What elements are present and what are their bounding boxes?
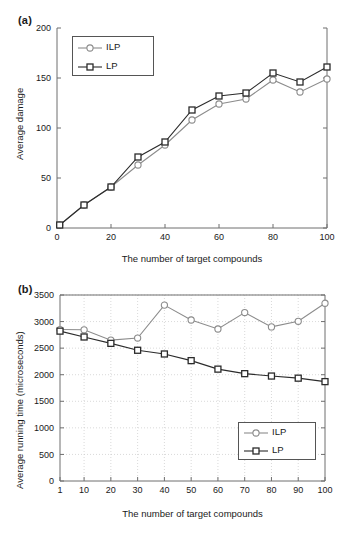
data-point-lp	[57, 222, 63, 228]
data-point-ilp	[324, 76, 330, 82]
legend-item-ilp[interactable]: ILP	[239, 423, 315, 441]
x-tick-label: 60	[213, 485, 223, 495]
series-lp	[57, 328, 328, 384]
legend-circle-marker-icon	[77, 42, 103, 52]
x-tick-label: 0	[54, 232, 59, 242]
x-tick-label: 40	[160, 232, 170, 242]
legend-square-marker-icon	[243, 445, 269, 455]
data-point-ilp	[189, 117, 195, 123]
data-point-lp	[270, 70, 276, 76]
data-point-ilp	[135, 162, 141, 168]
x-tick-label: 20	[106, 232, 116, 242]
data-point-ilp	[135, 335, 141, 341]
data-point-lp	[324, 64, 330, 70]
data-point-ilp	[215, 326, 221, 332]
x-tick-label: 1	[57, 485, 62, 495]
data-point-lp	[81, 202, 87, 208]
y-tick-label: 0	[49, 476, 54, 486]
series-ilp	[57, 76, 331, 228]
x-tick-label: 100	[319, 232, 334, 242]
data-point-lp	[295, 375, 301, 381]
x-tick-label: 80	[268, 232, 278, 242]
data-point-ilp	[216, 101, 222, 107]
panel-a-legend[interactable]: ILPLP	[72, 36, 154, 76]
x-tick-label: 90	[293, 485, 303, 495]
data-point-ilp	[268, 324, 274, 330]
y-tick-label: 1500	[34, 396, 54, 406]
panel-a: (a) Average damage 050100150200020406080…	[0, 0, 354, 271]
legend-label: LP	[106, 61, 118, 71]
x-tick-label: 30	[133, 485, 143, 495]
x-tick-label: 20	[106, 485, 116, 495]
data-point-ilp	[297, 89, 303, 95]
y-tick-label: 2000	[34, 370, 54, 380]
y-tick-label: 0	[46, 223, 51, 233]
data-point-lp	[162, 139, 168, 145]
legend-label: LP	[272, 445, 284, 455]
legend-square-marker-icon	[77, 61, 103, 71]
data-point-ilp	[295, 318, 301, 324]
data-point-lp	[297, 79, 303, 85]
x-tick-label: 100	[317, 485, 332, 495]
x-tick-label: 10	[79, 485, 89, 495]
x-tick-label: 80	[266, 485, 276, 495]
data-point-ilp	[242, 309, 248, 315]
data-point-lp	[161, 351, 167, 357]
y-tick-label: 1000	[34, 423, 54, 433]
axis-ticks: 0500100015002000250030003500110203040506…	[34, 290, 333, 495]
panel-b-y-axis-label: Average running time (microseconds)	[14, 331, 25, 489]
figure-container: (a) Average damage 050100150200020406080…	[0, 0, 354, 542]
panel-a-x-axis-label: The number of target compounds	[57, 253, 327, 264]
x-tick-label: 70	[240, 485, 250, 495]
legend-label: ILP	[106, 42, 120, 52]
data-point-ilp	[81, 327, 87, 333]
y-tick-label: 100	[36, 123, 51, 133]
y-tick-label: 2500	[34, 343, 54, 353]
data-point-ilp	[161, 302, 167, 308]
data-point-lp	[57, 328, 63, 334]
series-lp	[57, 64, 330, 228]
panel-b: (b) Average running time (microseconds) …	[0, 271, 354, 542]
data-point-ilp	[322, 300, 328, 306]
legend-label: ILP	[272, 427, 286, 437]
y-tick-label: 50	[41, 173, 51, 183]
data-point-lp	[242, 371, 248, 377]
panel-a-label: (a)	[18, 14, 32, 26]
data-point-lp	[322, 379, 328, 385]
data-point-lp	[135, 347, 141, 353]
data-point-lp	[108, 340, 114, 346]
legend-item-lp[interactable]: LP	[73, 56, 153, 75]
caption-strip	[0, 534, 354, 542]
data-point-lp	[268, 373, 274, 379]
y-tick-label: 3500	[34, 290, 54, 300]
data-point-lp	[189, 107, 195, 113]
legend-item-ilp[interactable]: ILP	[73, 37, 153, 56]
panel-b-legend[interactable]: ILPLP	[238, 422, 316, 460]
data-point-ilp	[243, 96, 249, 102]
x-tick-label: 40	[159, 485, 169, 495]
y-tick-label: 150	[36, 73, 51, 83]
legend-item-lp[interactable]: LP	[239, 441, 315, 459]
data-point-ilp	[270, 77, 276, 83]
data-point-lp	[188, 358, 194, 364]
y-tick-label: 3000	[34, 317, 54, 327]
x-tick-label: 50	[186, 485, 196, 495]
y-tick-label: 500	[39, 450, 54, 460]
data-point-lp	[215, 366, 221, 372]
data-point-lp	[81, 334, 87, 340]
series-ilp	[57, 300, 328, 343]
data-point-lp	[243, 90, 249, 96]
data-point-lp	[108, 184, 114, 190]
data-point-lp	[135, 154, 141, 160]
x-tick-label: 60	[214, 232, 224, 242]
legend-circle-marker-icon	[243, 427, 269, 437]
panel-b-x-axis-label: The number of target compounds	[60, 508, 325, 519]
panel-a-y-axis-label: Average damage	[14, 88, 25, 160]
data-point-lp	[216, 93, 222, 99]
y-tick-label: 200	[36, 23, 51, 33]
data-point-ilp	[188, 317, 194, 323]
panel-b-label: (b)	[18, 283, 33, 295]
